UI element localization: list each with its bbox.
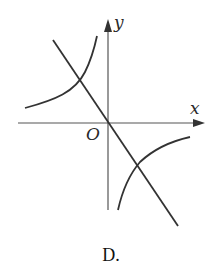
graph-canvas [0,0,222,271]
hyperbola-branch-upper-left [25,36,97,108]
line-curve [53,40,178,226]
y-axis-label: y [114,14,124,31]
x-axis-label: x [190,100,200,117]
function-graph-figure: y x O [0,0,222,271]
option-label: D. [0,245,222,266]
y-axis-arrow-icon [104,19,112,32]
x-axis-arrow-icon [193,119,205,127]
origin-label: O [86,126,100,143]
hyperbola-branch-lower-right [118,137,190,210]
